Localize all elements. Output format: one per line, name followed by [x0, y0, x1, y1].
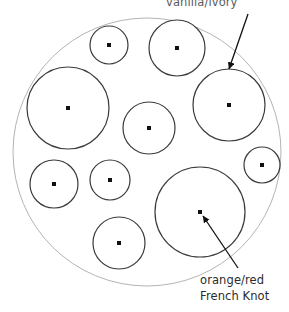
- french-knot-center-dot: [260, 163, 264, 167]
- bottom-annotation-line1: orange/red: [200, 273, 264, 287]
- embroidery-diagram: [0, 0, 289, 312]
- french-knot: [244, 147, 280, 183]
- french-knot-center-dot: [227, 103, 231, 107]
- top-annotation-label: vanilla/ivory: [166, 0, 238, 10]
- french-knot: [93, 217, 145, 269]
- french-knot: [90, 160, 130, 200]
- french-knot: [30, 160, 78, 208]
- french-knot-center-dot: [66, 106, 70, 110]
- french-knot: [27, 67, 109, 149]
- french-knot-center-dot: [108, 178, 112, 182]
- french-knot: [123, 102, 175, 154]
- french-knot-center-dot: [117, 241, 121, 245]
- french-knot-center-dot: [107, 43, 111, 47]
- french-knot: [193, 69, 265, 141]
- bottom-annotation-line2: French Knot: [200, 288, 269, 304]
- french-knot-center-dot: [198, 210, 202, 214]
- bottom-annotation-label: orange/red French Knot: [200, 272, 269, 304]
- french-knot: [149, 20, 205, 76]
- french-knot: [90, 26, 128, 64]
- french-knot-center-dot: [147, 126, 151, 130]
- french-knot-center-dot: [175, 46, 179, 50]
- french-knot: [155, 167, 245, 257]
- french-knot-center-dot: [52, 182, 56, 186]
- diagram-canvas: vanilla/ivory orange/red French Knot: [0, 0, 289, 312]
